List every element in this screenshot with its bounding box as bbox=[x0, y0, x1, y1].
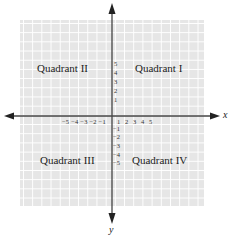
y-axis-up-arrow-icon bbox=[109, 3, 116, 14]
y-tick: −2 bbox=[113, 134, 120, 141]
y-tick: 1 bbox=[114, 97, 117, 104]
axes bbox=[0, 0, 232, 237]
x-tick: 2 bbox=[125, 119, 128, 126]
y-axis-down-arrow-icon bbox=[109, 213, 116, 224]
x-axis-right-arrow-icon bbox=[210, 113, 220, 120]
x-tick: 3 bbox=[133, 119, 136, 126]
y-tick: −4 bbox=[113, 152, 120, 159]
y-tick: 4 bbox=[114, 70, 117, 77]
x-tick: 5 bbox=[149, 119, 152, 126]
x-axis-left-arrow-icon bbox=[4, 113, 14, 120]
x-tick: 4 bbox=[141, 119, 144, 126]
y-axis-label: y bbox=[109, 224, 113, 235]
y-tick: −1 bbox=[113, 126, 120, 133]
quadrant-2-label: Quadrant II bbox=[37, 62, 88, 74]
quadrant-1-label: Quadrant I bbox=[135, 62, 182, 74]
x-axis-label: x bbox=[223, 109, 227, 120]
y-tick: 5 bbox=[114, 61, 117, 68]
y-tick: 2 bbox=[114, 88, 117, 95]
y-tick: −5 bbox=[113, 160, 120, 167]
quadrant-3-label: Quadrant III bbox=[40, 154, 95, 166]
quadrant-4-label: Quadrant IV bbox=[132, 154, 187, 166]
x-ticks-negative: −5 −4 −3 −2 −1 bbox=[62, 119, 106, 126]
y-tick: −3 bbox=[113, 143, 120, 150]
y-tick: 3 bbox=[114, 79, 117, 86]
